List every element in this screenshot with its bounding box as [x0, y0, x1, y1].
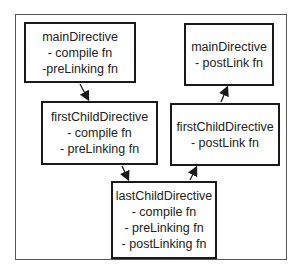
arrow-last-to-first-post [190, 168, 196, 180]
edges [0, 0, 304, 270]
arrow-main-to-first [80, 84, 88, 99]
arrow-first-post-to-main-post [221, 88, 227, 102]
directive-lifecycle-diagram: mainDirective - compile fn -preLinking f… [0, 0, 304, 270]
arrow-first-to-last [122, 166, 128, 179]
